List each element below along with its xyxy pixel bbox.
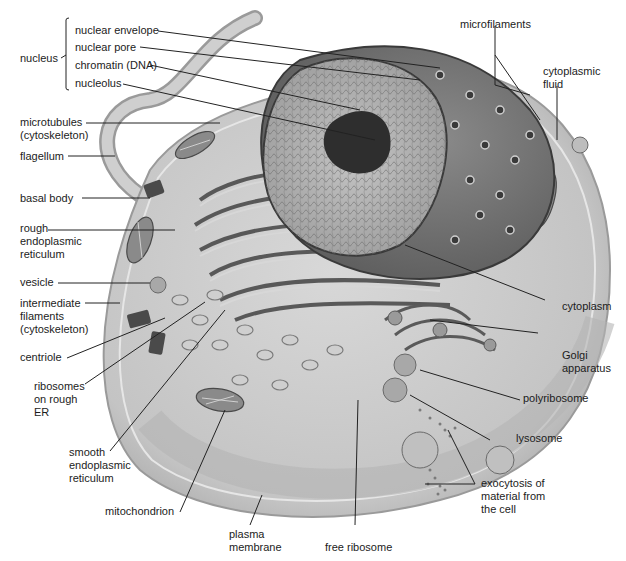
label-ribosomes-1: ribosomes [34,380,85,393]
label-flagellum: flagellum [20,150,64,163]
label-centriole: centriole [20,351,62,364]
label-smooth-er-2: endoplasmic [69,459,131,472]
label-lysosome: lysosome [516,432,562,445]
polyribosome-shape [394,354,416,376]
label-plasma-membrane-2: membrane [229,541,282,554]
label-polyribosome: polyribosome [523,392,588,405]
lysosome-shape [383,378,407,402]
label-smooth-er-3: reticulum [69,472,114,485]
label-golgi-1: Golgi [562,349,588,362]
label-chromatin: chromatin (DNA) [75,59,157,72]
animal-cell-diagram: nucleus nuclear envelope nuclear pore ch… [0,0,626,561]
label-intermediate-1: intermediate [20,297,81,310]
label-smooth-er-1: smooth [69,446,105,459]
label-microtubules: microtubules [20,116,82,129]
label-plasma-membrane-1: plasma [229,528,264,541]
label-nuclear-pore: nuclear pore [75,41,136,54]
label-microtubules-sub: (cytoskeleton) [20,129,88,142]
label-cytoplasmic-fluid-1: cytoplasmic [543,65,600,78]
label-intermediate-3: (cytoskeleton) [20,323,88,336]
label-rough-er-3: reticulum [20,248,65,261]
vesicle-shape [150,277,166,293]
label-basal-body: basal body [20,192,73,205]
label-intermediate-2: filaments [20,310,64,323]
label-nucleolus: nucleolus [75,77,121,90]
label-ribosomes-2: on rough [34,393,77,406]
label-nuclear-envelope: nuclear envelope [75,24,159,37]
nucleus-shape [261,46,554,279]
label-mitochondrion: mitochondrion [105,505,174,518]
label-cytoplasmic-fluid-2: fluid [543,78,563,91]
label-ribosomes-3: ER [34,406,49,419]
label-golgi-2: apparatus [562,362,611,375]
label-exocytosis-3: the cell [481,503,516,516]
label-nucleus: nucleus [20,52,58,65]
label-rough-er-2: endoplasmic [20,235,82,248]
label-exocytosis-1: exocytosis of [481,477,545,490]
label-microfilaments: microfilaments [460,18,531,31]
label-vesicle: vesicle [20,276,54,289]
label-rough-er-1: rough [20,222,48,235]
label-cytoplasm: cytoplasm [562,300,612,313]
label-free-ribosome: free ribosome [325,541,392,554]
label-exocytosis-2: material from [481,490,545,503]
